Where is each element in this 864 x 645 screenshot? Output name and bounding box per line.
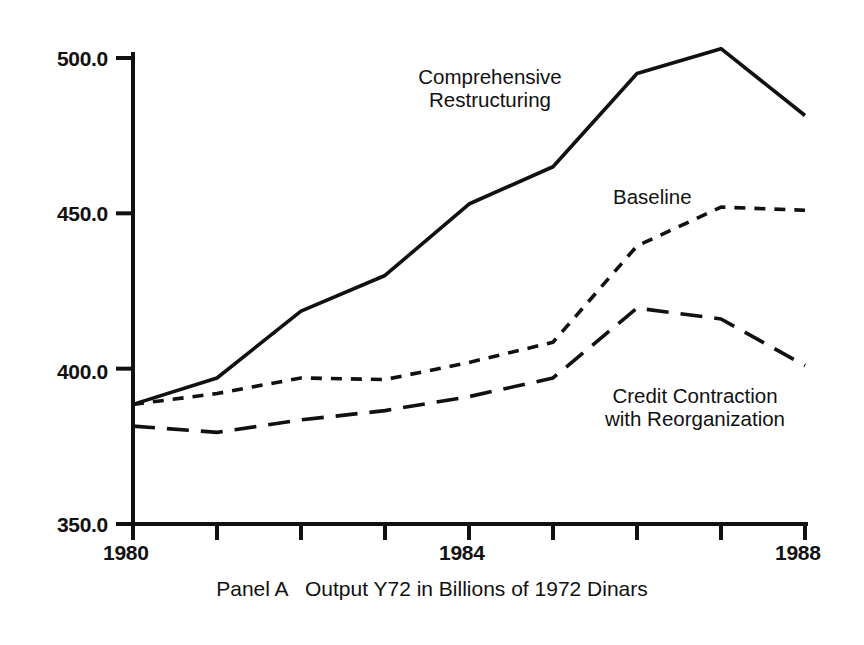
y-axis-ticks (116, 58, 133, 524)
x-tick-label-1980: 1980 (103, 541, 149, 565)
y-tick-label-400: 400.0 (26, 360, 108, 384)
series-label-baseline: Baseline (613, 186, 773, 209)
y-tick-label-500: 500.0 (26, 47, 108, 71)
chart-axes (116, 52, 808, 540)
series-label-comprehensive-restructuring: Comprehensive Restructuring (345, 66, 635, 112)
series-line-baseline (133, 207, 805, 404)
series-label-credit-contraction: Credit Contraction with Reorganization (545, 385, 845, 431)
x-tick-label-1988: 1988 (775, 541, 821, 565)
y-tick-label-350: 350.0 (26, 513, 108, 537)
x-axis-ticks (133, 524, 805, 540)
y-tick-label-450: 450.0 (26, 202, 108, 226)
chart-figure: 500.0 450.0 400.0 350.0 1980 1984 1988 C… (0, 0, 864, 645)
figure-caption: Panel A Output Y72 in Billions of 1972 D… (0, 577, 864, 601)
x-tick-label-1984: 1984 (439, 541, 485, 565)
